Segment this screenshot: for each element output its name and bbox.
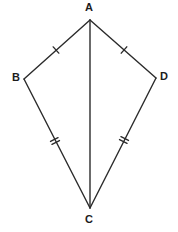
- geometry-figure: A B D C: [0, 0, 178, 232]
- vertex-label-a: A: [85, 2, 93, 13]
- edge-bc: [24, 79, 90, 208]
- vertex-label-c: C: [85, 214, 93, 225]
- vertex-label-b: B: [12, 72, 20, 83]
- edge-ab: [24, 20, 90, 79]
- vertex-label-d: D: [160, 71, 168, 82]
- edge-dc: [90, 78, 156, 208]
- kite-diagram-svg: [0, 0, 178, 232]
- edge-ad: [90, 20, 156, 78]
